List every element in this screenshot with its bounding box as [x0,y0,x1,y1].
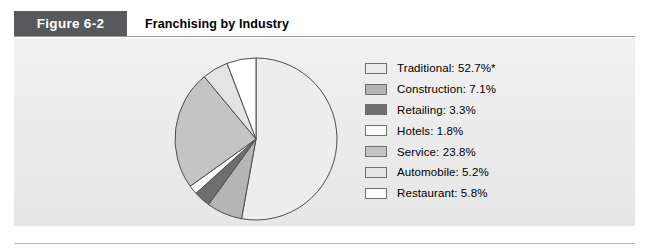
legend-label: Hotels: 1.8% [397,125,463,137]
legend-swatch [365,104,387,115]
legend-swatch [365,146,387,157]
legend-label: Restaurant: 5.8% [397,187,487,199]
legend-label: Service: 23.8% [397,146,476,158]
legend-item: Retailing: 3.3% [365,100,615,121]
figure-title: Franchising by Industry [145,11,289,36]
legend-item: Hotels: 1.8% [365,120,615,141]
legend-swatch [365,167,387,178]
legend-label: Traditional: 52.7%* [397,62,496,74]
legend-label: Automobile: 5.2% [397,166,489,178]
legend-item: Automobile: 5.2% [365,162,615,183]
pie-chart-svg [172,55,340,223]
legend-item: Construction: 7.1% [365,79,615,100]
header-divider [14,36,635,37]
footer-divider [14,243,635,244]
legend-item: Traditional: 52.7%* [365,58,615,79]
pie-chart [172,55,340,223]
legend-swatch [365,63,387,74]
chart-panel: Traditional: 52.7%*Construction: 7.1%Ret… [14,38,635,226]
chart-legend: Traditional: 52.7%*Construction: 7.1%Ret… [365,58,615,204]
figure-number-badge: Figure 6-2 [14,11,127,36]
legend-swatch [365,125,387,136]
legend-item: Restaurant: 5.8% [365,183,615,204]
figure-number-label: Figure 6-2 [14,11,127,36]
figure-header: Figure 6-2 Franchising by Industry [14,11,635,36]
legend-item: Service: 23.8% [365,141,615,162]
legend-swatch [365,84,387,95]
legend-label: Retailing: 3.3% [397,104,476,116]
legend-swatch [365,188,387,199]
figure-container: Figure 6-2 Franchising by Industry Tradi… [0,0,649,252]
legend-label: Construction: 7.1% [397,83,496,95]
